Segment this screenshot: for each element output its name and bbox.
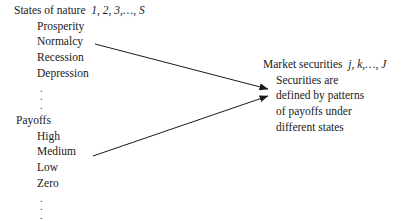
- list-item: High: [37, 129, 76, 145]
- market-securities-index: j, k,…, J: [348, 58, 386, 70]
- ellipsis-dot: .: [40, 212, 76, 221]
- list-item: of payoffs under: [276, 104, 386, 120]
- list-item: Zero: [37, 176, 76, 192]
- states-of-nature-block: States of nature 1, 2, 3,…, S Prosperity…: [14, 3, 145, 110]
- market-securities-description: Securities are defined by patterns of pa…: [276, 73, 386, 136]
- list-item: Medium: [37, 144, 76, 160]
- payoffs-block: Payoffs High Medium Low Zero . . .: [16, 113, 76, 220]
- ellipsis-dot: .: [40, 195, 76, 204]
- states-of-nature-heading: States of nature 1, 2, 3,…, S: [14, 3, 145, 19]
- market-securities-heading-label: Market securities: [263, 58, 343, 70]
- market-securities-heading: Market securities j, k,…, J: [263, 57, 386, 73]
- states-of-nature-index: 1, 2, 3,…, S: [91, 4, 144, 16]
- list-item: Recession: [37, 50, 145, 66]
- concept-diagram: States of nature 1, 2, 3,…, S Prosperity…: [0, 0, 408, 221]
- payoffs-ellipsis: . . .: [40, 195, 76, 221]
- list-item: Prosperity: [37, 19, 145, 35]
- payoffs-heading: Payoffs: [16, 113, 76, 129]
- states-of-nature-heading-label: States of nature: [14, 4, 86, 16]
- list-item: Normalcy: [37, 34, 145, 50]
- market-securities-block: Market securities j, k,…, J Securities a…: [263, 57, 386, 136]
- list-item: Securities are: [276, 73, 386, 89]
- ellipsis-dot: .: [40, 93, 145, 102]
- list-item: Depression: [37, 66, 145, 82]
- ellipsis-dot: .: [40, 85, 145, 94]
- list-item: Low: [37, 160, 76, 176]
- states-of-nature-list: Prosperity Normalcy Recession Depression: [37, 19, 145, 82]
- ellipsis-dot: .: [40, 203, 76, 212]
- list-item: defined by patterns: [276, 88, 386, 104]
- payoffs-heading-label: Payoffs: [16, 114, 51, 126]
- list-item: different states: [276, 120, 386, 136]
- payoffs-list: High Medium Low Zero: [37, 129, 76, 192]
- states-of-nature-ellipsis: . . .: [40, 85, 145, 111]
- ellipsis-dot: .: [40, 102, 145, 111]
